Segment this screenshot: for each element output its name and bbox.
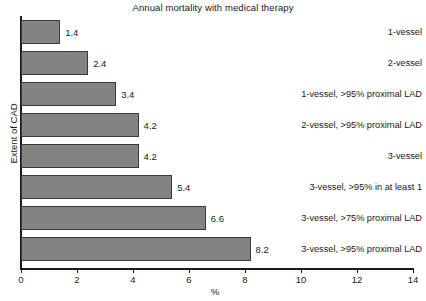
bar: [21, 175, 172, 199]
bar-value-label: 6.6: [211, 213, 224, 224]
x-tick-label: 8: [242, 274, 247, 285]
x-axis-title: %: [211, 286, 219, 297]
chart-title: Annual mortality with medical therapy: [0, 2, 426, 13]
y-axis-title: Extent of CAD: [8, 84, 19, 184]
x-tick-mark: [133, 268, 134, 273]
bar-value-label: 5.4: [177, 182, 190, 193]
bar: [21, 82, 116, 106]
bar-value-label: 2.4: [93, 58, 106, 69]
bar: [21, 113, 139, 137]
x-tick-mark: [413, 268, 414, 273]
bar-chart: Annual mortality with medical therapy Ex…: [0, 0, 426, 301]
bar-value-label: 4.2: [144, 151, 157, 162]
x-tick-mark: [21, 268, 22, 273]
category-label: 1-vessel: [388, 27, 422, 37]
bar: [21, 51, 88, 75]
bar-row: 5.43-vessel, >95% in at least 1: [21, 175, 426, 199]
x-tick-mark: [357, 268, 358, 273]
x-tick-label: 6: [186, 274, 191, 285]
x-tick-mark: [245, 268, 246, 273]
x-axis-line: [20, 268, 414, 270]
bar-value-label: 8.2: [256, 244, 269, 255]
category-label: 3-vessel, >95% proximal LAD: [301, 244, 422, 254]
bar-value-label: 3.4: [121, 89, 134, 100]
bar: [21, 206, 206, 230]
bar-row: 8.23-vessel, >95% proximal LAD: [21, 237, 426, 261]
bar-row: 4.23-vessel: [21, 144, 426, 168]
bar-row: 6.63-vessel, >75% proximal LAD: [21, 206, 426, 230]
x-tick-label: 0: [18, 274, 23, 285]
bar-row: 3.41-vessel, >95% proximal LAD: [21, 82, 426, 106]
x-tick-mark: [77, 268, 78, 273]
bar-row: 4.22-vessel, >95% proximal LAD: [21, 113, 426, 137]
bar-row: 2.42-vessel: [21, 51, 426, 75]
x-tick-mark: [301, 268, 302, 273]
x-tick-label: 14: [408, 274, 419, 285]
category-label: 2-vessel: [388, 58, 422, 68]
x-tick-label: 12: [352, 274, 363, 285]
bar: [21, 144, 139, 168]
category-label: 2-vessel, >95% proximal LAD: [301, 120, 422, 130]
x-tick-label: 2: [74, 274, 79, 285]
x-tick-label: 4: [130, 274, 135, 285]
category-label: 3-vessel, >75% proximal LAD: [301, 213, 422, 223]
x-tick-label: 10: [296, 274, 307, 285]
category-label: 3-vessel, >95% in at least 1: [309, 182, 422, 192]
bar-value-label: 4.2: [144, 120, 157, 131]
category-label: 3-vessel: [388, 151, 422, 161]
plot-area: 1.41-vessel2.42-vessel3.41-vessel, >95% …: [21, 18, 413, 268]
bar: [21, 237, 251, 261]
x-tick-mark: [189, 268, 190, 273]
category-label: 1-vessel, >95% proximal LAD: [301, 89, 422, 99]
bar: [21, 20, 60, 44]
bar-value-label: 1.4: [65, 27, 78, 38]
bar-row: 1.41-vessel: [21, 20, 426, 44]
